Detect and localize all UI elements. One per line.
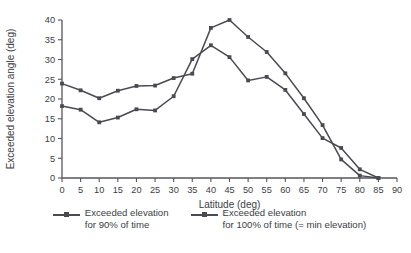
x-axis-tick-label: 65: [299, 185, 309, 195]
x-axis-tick-label: 25: [150, 185, 160, 195]
x-axis-tick-label: 80: [355, 185, 365, 195]
series-marker-0: [321, 123, 325, 127]
series-marker-1: [172, 94, 176, 98]
y-axis-tick-label: 35: [45, 35, 55, 45]
plot-area-wrapper: 0510152025303540051015202530354045505560…: [0, 0, 411, 210]
x-axis-tick-label: 35: [187, 185, 197, 195]
chart-legend: Exceeded elevation for 90% of time Excee…: [0, 207, 411, 253]
x-axis-tick-label: 30: [169, 185, 179, 195]
series-marker-0: [228, 18, 232, 22]
y-axis-title: Exceeded elevation angle (deg): [5, 29, 16, 170]
series-marker-0: [60, 82, 64, 86]
series-marker-1: [79, 108, 83, 112]
x-axis-tick-label: 50: [243, 185, 253, 195]
y-axis-tick-label: 5: [50, 154, 55, 164]
series-marker-1: [246, 79, 250, 83]
series-marker-1: [60, 104, 64, 108]
x-axis-tick-label: 20: [131, 185, 141, 195]
x-axis-tick-label: 60: [280, 185, 290, 195]
legend-label-line2: for 90% of time: [85, 219, 150, 230]
series-marker-1: [135, 107, 139, 111]
series-marker-0: [172, 76, 176, 80]
series-marker-1: [97, 120, 101, 124]
series-line-1: [62, 45, 378, 178]
legend-label-line1: Exceeded elevation: [223, 207, 307, 218]
series-marker-1: [358, 167, 362, 171]
x-axis-tick-label: 5: [78, 185, 83, 195]
x-axis-tick-label: 15: [113, 185, 123, 195]
series-marker-1: [116, 116, 120, 120]
series-marker-0: [246, 35, 250, 39]
legend-label-line1: Exceeded elevation: [85, 207, 169, 218]
legend-line-marker-icon: [191, 209, 218, 221]
legend-label-exceeded-90: Exceeded elevation for 90% of time: [85, 207, 169, 230]
x-axis-tick-label: 10: [94, 185, 104, 195]
legend-item-exceeded-100: Exceeded elevation for 100% of time (= m…: [191, 207, 367, 230]
legend-item-exceeded-90: Exceeded elevation for 90% of time: [53, 207, 169, 230]
series-marker-1: [376, 176, 380, 180]
legend-line-marker-icon: [53, 209, 80, 221]
series-marker-1: [190, 57, 194, 61]
series-marker-1: [283, 88, 287, 92]
series-marker-0: [116, 89, 120, 93]
legend-label-line2: for 100% of time (= min elevation): [223, 219, 367, 230]
series-marker-0: [265, 50, 269, 54]
line-chart-svg: 0510152025303540051015202530354045505560…: [0, 0, 411, 210]
chart-figure: 0510152025303540051015202530354045505560…: [0, 0, 411, 253]
x-axis-tick-label: 55: [262, 185, 272, 195]
x-axis-tick-label: 40: [206, 185, 216, 195]
legend-label-exceeded-100: Exceeded elevation for 100% of time (= m…: [223, 207, 367, 230]
y-axis-tick-label: 25: [45, 75, 55, 85]
x-axis-tick-label: 90: [392, 185, 402, 195]
series-marker-0: [339, 158, 343, 162]
x-axis-tick-label: 45: [224, 185, 234, 195]
series-line-0: [62, 20, 378, 178]
series-marker-1: [321, 136, 325, 140]
series-marker-0: [79, 88, 83, 92]
series-marker-0: [283, 71, 287, 75]
x-axis-tick-label: 75: [336, 185, 346, 195]
y-axis-tick-label: 40: [45, 15, 55, 25]
x-axis-tick-label: 0: [59, 185, 64, 195]
series-marker-1: [339, 146, 343, 150]
series-marker-0: [358, 174, 362, 178]
y-axis-tick-label: 10: [45, 134, 55, 144]
series-marker-0: [153, 84, 157, 88]
series-marker-1: [228, 55, 232, 59]
series-marker-1: [302, 112, 306, 116]
y-axis-tick-label: 0: [50, 173, 55, 183]
series-marker-0: [135, 84, 139, 88]
series-marker-1: [209, 43, 213, 47]
y-axis-tick-label: 15: [45, 114, 55, 124]
series-marker-0: [190, 72, 194, 76]
series-marker-1: [153, 109, 157, 113]
series-marker-0: [209, 26, 213, 30]
y-axis-tick-label: 20: [45, 94, 55, 104]
series-marker-1: [265, 75, 269, 79]
x-axis-tick-label: 85: [373, 185, 383, 195]
series-marker-0: [97, 96, 101, 100]
y-axis-tick-label: 30: [45, 55, 55, 65]
x-axis-tick-label: 70: [317, 185, 327, 195]
series-marker-0: [302, 96, 306, 100]
